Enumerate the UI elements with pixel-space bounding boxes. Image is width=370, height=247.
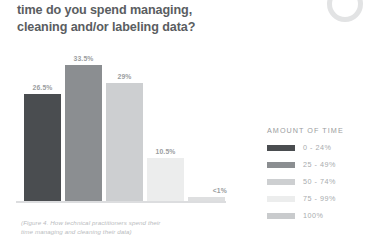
bar-group: 29% bbox=[106, 55, 143, 201]
bar-2 bbox=[65, 65, 102, 201]
legend-item-4[interactable]: 75 - 99% bbox=[267, 194, 367, 203]
bar-group: 26.5% bbox=[24, 55, 61, 201]
legend-label-2: 25 - 49% bbox=[303, 160, 336, 169]
legend-swatch-2 bbox=[267, 162, 295, 168]
bar-group: 10.5% bbox=[147, 55, 184, 201]
page-title-line-2: cleaning and/or labeling data? bbox=[17, 19, 267, 36]
legend-label-4: 75 - 99% bbox=[303, 194, 336, 203]
chart-baseline bbox=[16, 201, 226, 203]
chart-plot-area: 26.5%33.5%29%10.5%<1% bbox=[16, 55, 228, 201]
bar-1 bbox=[24, 94, 61, 201]
legend-label-3: 50 - 74% bbox=[303, 177, 336, 186]
legend-label-1: 0 - 24% bbox=[303, 143, 331, 152]
bar-4 bbox=[147, 158, 184, 201]
legend-label-5: 100% bbox=[303, 211, 323, 220]
bar-value-label-4: 10.5% bbox=[147, 148, 184, 155]
legend-swatch-3 bbox=[267, 179, 295, 185]
decorative-ring bbox=[327, 0, 363, 22]
bar-group: 33.5% bbox=[65, 55, 102, 201]
page-title-line-1: time do you spend managing, bbox=[17, 2, 267, 19]
legend-swatch-4 bbox=[267, 196, 295, 202]
bar-value-label-5: <1% bbox=[213, 187, 227, 194]
bar-group: <1% bbox=[188, 55, 225, 201]
bar-chart: 26.5%33.5%29%10.5%<1% bbox=[16, 55, 228, 205]
legend-items: 0 - 24%25 - 49%50 - 74%75 - 99%100% bbox=[267, 143, 367, 220]
bar-value-label-3: 29% bbox=[106, 73, 143, 80]
figure-caption: (Figure 4. How technical practitioners s… bbox=[21, 218, 211, 236]
page-title: time do you spend managing, cleaning and… bbox=[17, 2, 267, 36]
bar-value-label-1: 26.5% bbox=[24, 84, 61, 91]
figure-caption-line-1: (Figure 4. How technical practitioners s… bbox=[21, 218, 211, 227]
legend-heading: AMOUNT OF TIME bbox=[267, 126, 367, 135]
legend-swatch-5 bbox=[267, 213, 295, 219]
legend-swatch-1 bbox=[267, 145, 295, 151]
legend-item-5[interactable]: 100% bbox=[267, 211, 367, 220]
bar-3 bbox=[106, 83, 143, 201]
legend-item-3[interactable]: 50 - 74% bbox=[267, 177, 367, 186]
bar-value-label-2: 33.5% bbox=[65, 55, 102, 62]
figure-caption-line-2: time managing and cleaning their data) bbox=[21, 227, 211, 236]
legend-item-1[interactable]: 0 - 24% bbox=[267, 143, 367, 152]
chart-legend: AMOUNT OF TIME 0 - 24%25 - 49%50 - 74%75… bbox=[267, 126, 367, 228]
legend-item-2[interactable]: 25 - 49% bbox=[267, 160, 367, 169]
